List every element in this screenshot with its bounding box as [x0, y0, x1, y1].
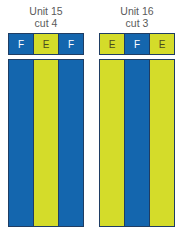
top-cell: F	[58, 34, 83, 54]
unit-16-title-line2: cut 3	[99, 17, 175, 29]
unit-15-strips	[8, 59, 84, 227]
unit-16-top-row: E F E	[99, 33, 175, 55]
strip	[33, 60, 58, 226]
strip	[124, 60, 149, 226]
top-cell: F	[9, 34, 33, 54]
top-cell: E	[100, 34, 124, 54]
strip	[149, 60, 174, 226]
strip	[58, 60, 83, 226]
top-cell: E	[149, 34, 174, 54]
unit-16-strips	[99, 59, 175, 227]
strip	[9, 60, 33, 226]
strip	[100, 60, 124, 226]
top-cell: F	[124, 34, 149, 54]
top-cell: E	[33, 34, 58, 54]
unit-15-title-line1: Unit 15	[8, 5, 84, 17]
unit-16-title-line1: Unit 16	[99, 5, 175, 17]
unit-15-top-row: F E F	[8, 33, 84, 55]
unit-15-title: Unit 15 cut 4	[8, 5, 84, 29]
unit-15-title-line2: cut 4	[8, 17, 84, 29]
unit-16-title: Unit 16 cut 3	[99, 5, 175, 29]
